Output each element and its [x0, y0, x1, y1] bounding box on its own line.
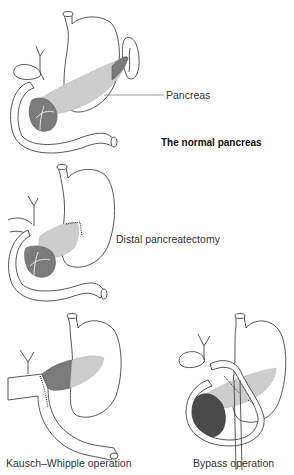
distal-pancreatectomy-illustration: [8, 165, 115, 301]
bypass-operation-label: Bypass operation: [193, 457, 274, 469]
kausch-whipple-illustration: [8, 314, 121, 461]
normal-pancreas-illustration: [11, 12, 164, 153]
bypass-illustration: [179, 314, 286, 471]
distal-pancreatectomy-label: Distal pancreatectomy: [116, 233, 220, 245]
pancreas-label: Pancreas: [166, 89, 210, 101]
pancreas-surgery-diagram: Pancreas The normal pancreas Distal panc…: [0, 0, 294, 475]
kausch-whipple-label: Kausch–Whipple operation: [6, 457, 132, 469]
normal-pancreas-title: The normal pancreas: [161, 137, 262, 148]
